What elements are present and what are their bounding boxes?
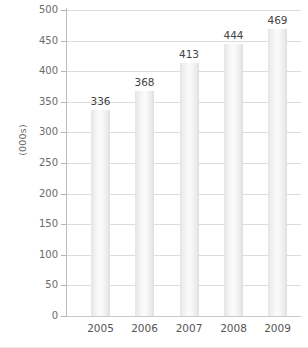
y-tick-label: 450 <box>12 36 58 46</box>
bar <box>180 63 199 316</box>
y-tick-label: 250 <box>12 158 58 168</box>
x-tick-label: 2009 <box>253 323 303 334</box>
y-tick-label: 150 <box>12 219 58 229</box>
bar-value-label: 368 <box>120 77 170 88</box>
bar <box>91 110 110 316</box>
y-tick-label: 350 <box>12 97 58 107</box>
y-tick-label: 500 <box>12 5 58 15</box>
y-tick-label: 50 <box>12 280 58 290</box>
bar-value-label: 469 <box>253 15 303 26</box>
y-tick-label: 400 <box>12 66 58 76</box>
x-tick-label: 2005 <box>76 323 126 334</box>
y-tick-label: 300 <box>12 127 58 137</box>
bar <box>135 91 154 316</box>
x-tick-label: 2008 <box>209 323 259 334</box>
y-tick-label: 100 <box>12 250 58 260</box>
x-tick-label: 2006 <box>120 323 170 334</box>
y-tick-label: 0 <box>12 311 58 321</box>
gridline <box>66 316 301 317</box>
bar-value-label: 336 <box>76 96 126 107</box>
x-tick-label: 2007 <box>164 323 214 334</box>
bar-value-label: 413 <box>164 49 214 60</box>
y-axis-line <box>66 8 67 317</box>
bar-value-label: 444 <box>209 30 259 41</box>
gridline <box>66 10 301 11</box>
y-tick-label: 200 <box>12 189 58 199</box>
gridline <box>66 41 301 42</box>
bar <box>224 44 243 316</box>
plot-area: 050100150200250300350400450500 336368413… <box>0 0 308 348</box>
bar <box>268 29 287 316</box>
bar-chart: (000s) 050100150200250300350400450500 33… <box>0 0 308 348</box>
